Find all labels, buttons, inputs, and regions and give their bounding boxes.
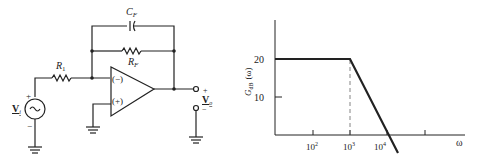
- x-tick-label-10e2: 102: [306, 141, 318, 152]
- feedback-resistor-label: RF: [127, 56, 139, 69]
- circuit-diagram: [25, 21, 203, 153]
- noninverting-input-label: (+): [112, 96, 123, 106]
- y-axis-label: GdB(ω): [243, 68, 254, 96]
- x-axis-label: ω: [456, 137, 463, 148]
- y-tick-label-20: 20: [254, 54, 264, 65]
- bode-plot: [275, 20, 465, 153]
- inverting-input-label: (−): [112, 74, 123, 84]
- output-terminal-minus: [194, 106, 199, 111]
- feedback-cap-right-wire: [133, 26, 174, 89]
- source-label: Vi: [12, 103, 21, 115]
- sine-icon: [30, 107, 40, 111]
- feedback-left-wire: [92, 26, 127, 78]
- feedback-resistor-rf: [122, 48, 141, 54]
- source-plus-label: +: [26, 91, 31, 101]
- ground-icon: [86, 127, 100, 133]
- input-wire: [35, 78, 52, 97]
- gain-asymptote-line: [275, 59, 398, 153]
- noninv-ground-wire: [93, 104, 111, 127]
- capacitor-label: CF: [126, 6, 138, 19]
- input-resistor-r1: [52, 75, 71, 81]
- x-tick-label-10e3: 103: [343, 141, 355, 152]
- output-minus-label: −: [202, 105, 207, 114]
- x-tick-label-10e4: 104: [374, 141, 386, 152]
- y-tick-label-10: 10: [254, 92, 264, 103]
- ground-icon: [28, 147, 42, 153]
- figure: CF RF R1 (−) (+) + − Vi + Vo − 20 10 GdB…: [0, 0, 480, 164]
- source-minus-label: −: [27, 121, 32, 131]
- output-terminal-plus: [194, 87, 199, 92]
- ground-icon: [189, 137, 203, 143]
- input-resistor-label: R1: [55, 60, 66, 73]
